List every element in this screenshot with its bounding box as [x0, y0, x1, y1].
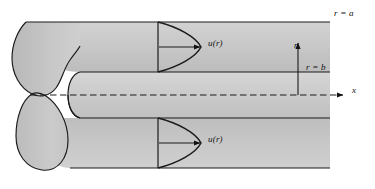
annulus-body — [12, 22, 330, 170]
label-outer-radius: r = a — [334, 9, 354, 18]
outer-cap-lower — [16, 93, 68, 170]
label-axial-axis: x — [352, 86, 356, 95]
label-velocity-upper: u(r) — [208, 39, 223, 48]
label-radial-axis: r — [294, 41, 298, 50]
annular-pipe-flow-figure: r = a r = b x r u(r) u(r) — [0, 0, 375, 189]
label-velocity-lower: u(r) — [208, 135, 223, 144]
label-inner-radius: r = b — [306, 63, 326, 72]
pipe-diagram-svg — [0, 0, 375, 189]
